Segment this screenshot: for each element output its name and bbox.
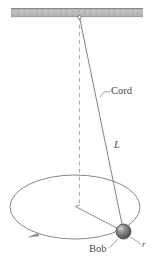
bob-sphere xyxy=(116,224,131,239)
radius-label: r xyxy=(142,240,146,249)
ceiling-bar-texture xyxy=(11,8,143,17)
pivot-point-icon xyxy=(78,16,81,19)
bob-label: Bob xyxy=(89,244,107,255)
radius-line xyxy=(75,205,123,231)
pendulum-bob xyxy=(116,224,131,239)
motion-direction-arrow-icon xyxy=(29,233,39,237)
ceiling-support xyxy=(11,8,143,17)
cord-label: Cord xyxy=(111,86,132,97)
bob-label-leader-line xyxy=(109,239,119,248)
cord-label-leader-line xyxy=(100,92,111,98)
cord-line xyxy=(80,17,124,232)
conical-pendulum-figure: Cord L Bob r xyxy=(0,0,153,258)
bob-highlight xyxy=(118,227,123,231)
length-label: L xyxy=(114,140,120,151)
radius-label-leader-line xyxy=(130,237,141,244)
pendulum-drawing-canvas xyxy=(0,0,153,258)
